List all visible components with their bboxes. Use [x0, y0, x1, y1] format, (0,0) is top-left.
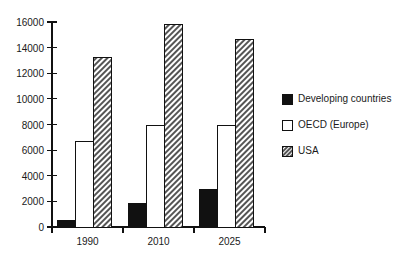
bar-oecd-1990[interactable] — [75, 141, 93, 227]
legend-label-usa: USA — [298, 145, 319, 156]
legend-swatch-oecd-europe — [282, 120, 292, 130]
legend-label-developing-countries: Developing countries — [298, 93, 391, 104]
bar-usa-2010[interactable] — [164, 25, 182, 227]
y-tick-label-6000: 6000 — [22, 145, 45, 156]
bar-developing-1990[interactable] — [57, 221, 75, 227]
bar-chart: 16000 14000 12000 10000 8000 6000 4000 2… — [0, 0, 397, 256]
y-tick-label-10000: 10000 — [16, 94, 44, 105]
legend-item-usa[interactable]: USA — [282, 145, 319, 156]
bar-developing-2025[interactable] — [199, 189, 217, 227]
legend-item-developing-countries[interactable]: Developing countries — [282, 93, 391, 104]
bar-oecd-2025[interactable] — [217, 125, 235, 227]
x-tick-label-2010: 2010 — [147, 236, 170, 247]
legend-swatch-usa — [282, 146, 292, 156]
y-tick-label-14000: 14000 — [16, 43, 44, 54]
x-tick-label-2025: 2025 — [218, 236, 241, 247]
y-tick-label-4000: 4000 — [22, 171, 45, 182]
bar-usa-1990[interactable] — [93, 58, 111, 227]
legend-swatch-developing-countries — [282, 94, 292, 104]
y-tick-label-2000: 2000 — [22, 196, 45, 207]
chart-container: 16000 14000 12000 10000 8000 6000 4000 2… — [0, 0, 397, 256]
bar-developing-2010[interactable] — [128, 203, 146, 227]
legend-label-oecd-europe: OECD (Europe) — [298, 119, 369, 130]
y-tick-label-0: 0 — [38, 222, 44, 233]
y-tick-label-12000: 12000 — [16, 68, 44, 79]
y-tick-label-16000: 16000 — [16, 17, 44, 28]
x-tick-label-1990: 1990 — [76, 236, 99, 247]
bar-usa-2025[interactable] — [235, 39, 253, 227]
bar-oecd-2010[interactable] — [146, 125, 164, 227]
y-tick-label-8000: 8000 — [22, 120, 45, 131]
